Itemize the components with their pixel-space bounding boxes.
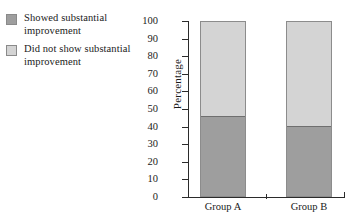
legend-swatch-showed-improvement (6, 14, 17, 25)
y-axis-tick (182, 162, 188, 163)
y-axis-line (188, 21, 189, 197)
stacked-bar-group-b[interactable] (286, 21, 332, 197)
legend-swatch-no-improvement (6, 45, 17, 56)
x-axis-tick-label: Group B (269, 201, 349, 212)
bar-segment-showed-improvement[interactable] (287, 126, 331, 196)
x-axis-end-tick (344, 192, 345, 198)
y-axis-tick (182, 91, 188, 92)
bar-segment-showed-improvement[interactable] (201, 116, 245, 196)
y-axis-tick (182, 39, 188, 40)
bar-segment-no-improvement[interactable] (201, 22, 245, 116)
y-axis-tick-label: 0 (118, 192, 158, 203)
y-axis-tick-label: 70 (118, 69, 158, 80)
stacked-bar-group-a[interactable] (200, 21, 246, 197)
x-axis-tick-label: Group A (183, 201, 263, 212)
stacked-bar-chart: Percentage 1009080706050403020100 Group … (160, 18, 350, 204)
y-axis-tick (182, 127, 188, 128)
y-axis-tick (182, 179, 188, 180)
y-axis-tick (182, 56, 188, 57)
y-axis-tick-label: 10 (118, 174, 158, 185)
y-axis-tick-label: 30 (118, 139, 158, 150)
y-axis-tick (182, 144, 188, 145)
bar-segment-no-improvement[interactable] (287, 22, 331, 126)
y-axis-tick-label: 80 (118, 51, 158, 62)
y-axis-tick (182, 109, 188, 110)
y-axis-tick-label: 40 (118, 122, 158, 133)
y-axis-tick (182, 74, 188, 75)
y-axis-tick (182, 21, 188, 22)
y-axis-tick-label: 20 (118, 157, 158, 168)
x-axis-middle-tick (266, 194, 267, 199)
y-axis-tick-label: 50 (118, 104, 158, 115)
y-axis-tick (182, 197, 188, 198)
y-axis-title: Percentage (171, 29, 183, 139)
y-axis-tick-label: 100 (118, 16, 158, 27)
y-axis-tick-label: 60 (118, 86, 158, 97)
y-axis-tick-label: 90 (118, 34, 158, 45)
